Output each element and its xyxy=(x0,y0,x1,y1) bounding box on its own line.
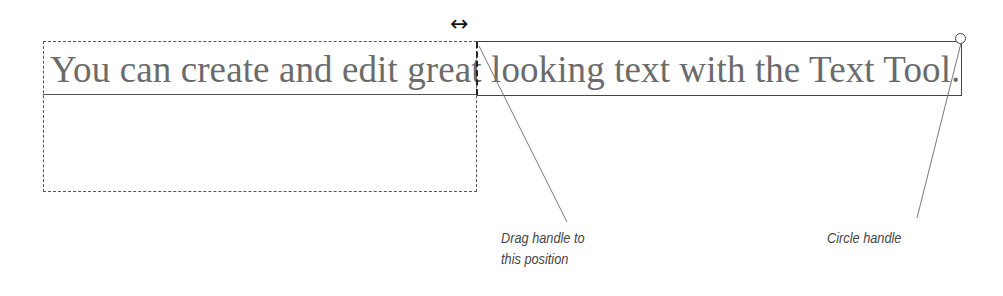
drag-handle-callout-line1: Drag handle to xyxy=(501,227,585,248)
circle-callout-leader xyxy=(917,43,961,218)
drag-callout-leader xyxy=(479,46,567,222)
text-tool-illustration: You can create and edit great looking te… xyxy=(0,0,1003,296)
drag-handle-callout-line2: this position xyxy=(501,248,585,269)
drag-handle-callout: Drag handle to this position xyxy=(501,227,585,269)
circle-handle-callout: Circle handle xyxy=(827,227,901,248)
